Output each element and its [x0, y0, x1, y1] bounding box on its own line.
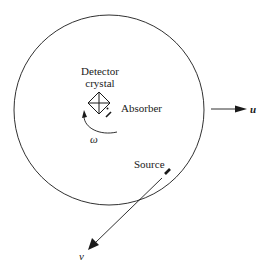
diagram-canvas: [0, 0, 267, 267]
absorber-dot-icon: [107, 108, 109, 110]
rotation-arrowhead-icon: [82, 110, 87, 118]
v-axis-arrowhead-icon: [88, 238, 99, 250]
omega-label: ω: [90, 133, 98, 145]
boundary-circle: [14, 15, 204, 205]
u-axis-label: u: [250, 103, 256, 115]
rotation-arc-icon: [84, 116, 117, 133]
source-icon: [165, 169, 170, 174]
v-axis-line: [95, 178, 162, 243]
detector-label-line1: Detector: [78, 65, 122, 77]
detector-label: Detector crystal: [78, 65, 122, 89]
detector-label-line2: crystal: [78, 77, 122, 89]
source-label: Source: [134, 158, 165, 170]
u-axis-arrowhead-icon: [235, 106, 247, 113]
absorber-icon: [106, 112, 111, 117]
absorber-label: Absorber: [121, 102, 162, 114]
v-axis-label: v: [79, 250, 84, 262]
detector-crystal-icon: [88, 92, 110, 114]
